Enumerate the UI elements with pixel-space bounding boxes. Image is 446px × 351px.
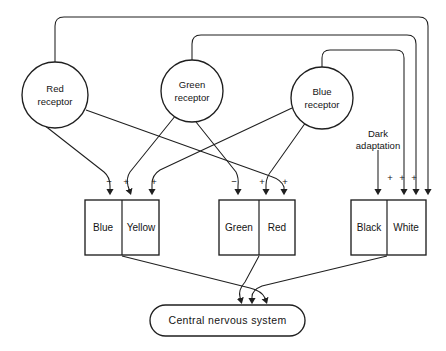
sign-greenred-2: + — [282, 176, 288, 187]
channel-green-red[interactable]: Green Red — [219, 200, 295, 255]
sign-annotations: − + + − + + + + + — [106, 172, 417, 187]
wire-red-to-blueyellow-minus — [44, 125, 110, 192]
wire-blueyellow-to-cns — [122, 256, 266, 301]
yellow-cell-label: Yellow — [127, 222, 156, 233]
blue-receptor-label-line1: Blue — [312, 86, 331, 97]
receptor-red[interactable]: Red receptor — [22, 62, 88, 128]
sign-greenred-0: − — [231, 176, 237, 187]
sign-blueyellow-1: + — [123, 176, 129, 187]
wire-greenred-to-cns — [240, 256, 259, 301]
blue-cell-label: Blue — [93, 222, 113, 233]
central-nervous-system[interactable]: Central nervous system — [150, 305, 305, 336]
channel-to-cns-wires — [122, 256, 387, 301]
black-cell-label: Black — [357, 222, 382, 233]
receptor-green[interactable]: Green receptor — [161, 60, 223, 122]
wire-blackwhite-to-cns — [252, 256, 387, 301]
green-receptor-label-line1: Green — [179, 79, 205, 90]
dark-adaptation-label-line1: Dark — [368, 128, 388, 139]
sign-blackwhite-2: + — [411, 172, 417, 183]
channel-black-white[interactable]: Black White — [351, 200, 426, 255]
red-receptor-label-line1: Red — [46, 83, 63, 94]
wire-blue-to-blueyellow-plus2 — [152, 108, 292, 192]
wire-red-to-greenred-plus — [86, 110, 284, 192]
receptor-blue[interactable]: Blue receptor — [291, 67, 353, 129]
channel-blue-yellow[interactable]: Blue Yellow — [85, 200, 159, 255]
green-receptor-label-line2: receptor — [175, 92, 210, 103]
dark-adaptation-label-line2: adaptation — [356, 140, 400, 151]
color-vision-diagram: Dark adaptation − + + − + + + + — [0, 0, 446, 351]
red-receptor-label-line2: receptor — [38, 96, 73, 107]
white-cell-label: White — [393, 222, 419, 233]
blue-receptor-label-line2: receptor — [305, 99, 340, 110]
sign-greenred-1: + — [259, 176, 265, 187]
receptor-to-channel-wires — [44, 108, 306, 192]
sign-blueyellow-0: − — [106, 176, 112, 187]
red-cell-label: Red — [268, 222, 286, 233]
sign-blackwhite-0: + — [387, 172, 393, 183]
diagram-canvas: Dark adaptation − + + − + + + + — [0, 0, 446, 351]
cns-label: Central nervous system — [169, 314, 287, 326]
sign-blackwhite-1: + — [399, 172, 405, 183]
green-cell-label: Green — [225, 222, 253, 233]
sign-blueyellow-2: + — [151, 176, 157, 187]
